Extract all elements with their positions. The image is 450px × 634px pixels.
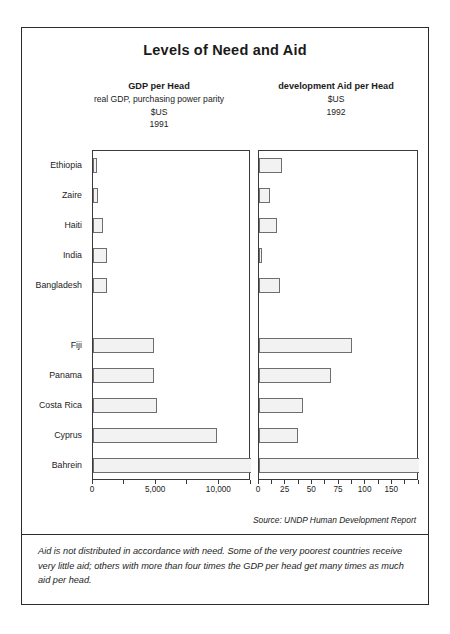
gdp-bar — [93, 218, 103, 233]
bar-row — [259, 331, 417, 361]
page-title: Levels of Need and Aid — [22, 42, 428, 58]
bar-row — [259, 271, 417, 301]
axis-tick-label: 10,000 — [206, 485, 231, 494]
bar-row — [93, 331, 249, 361]
panel-right-unit: $US — [254, 93, 418, 105]
aid-bar — [259, 338, 352, 353]
gdp-bar — [93, 188, 98, 203]
axis-tick — [218, 480, 219, 484]
bar-row — [93, 151, 249, 181]
source-note: Source: UNDP Human Development Report — [253, 515, 416, 525]
gdp-bar — [93, 338, 154, 353]
gdp-bar — [93, 278, 107, 293]
figure-frame: Levels of Need and Aid GDP per Head real… — [21, 27, 429, 605]
bar-row — [93, 271, 249, 301]
axis-tick-label: 5,000 — [145, 485, 166, 494]
figure-caption: Aid is not distributed in accordance wit… — [38, 544, 414, 588]
gdp-bar — [93, 158, 97, 173]
gdp-bar — [93, 398, 157, 413]
axis-tick — [364, 480, 365, 484]
category-label: Costa Rica — [39, 390, 82, 420]
axis-tick-label: 0 — [256, 485, 261, 494]
aid-bar — [259, 218, 277, 233]
bar-row — [259, 211, 417, 241]
bar-row — [259, 451, 417, 481]
plot-area-aid — [258, 150, 418, 480]
aid-bar — [259, 428, 298, 443]
bar-row — [259, 361, 417, 391]
axis-tick — [404, 480, 405, 484]
bar-row — [93, 181, 249, 211]
bar-row — [93, 211, 249, 241]
axis-tick-label: 25 — [280, 485, 289, 494]
panel-header-right: development Aid per Head $US 1992 — [254, 80, 418, 118]
bar-row — [93, 421, 249, 451]
x-axis-gdp: 05,00010,000 — [92, 480, 250, 506]
aid-bar — [259, 188, 270, 203]
category-label: Cyprus — [54, 420, 82, 450]
bar-row — [259, 421, 417, 451]
bar-row — [93, 361, 249, 391]
category-label: Haiti — [64, 210, 82, 240]
panel-left-year: 1991 — [66, 118, 252, 130]
axis-tick — [311, 480, 312, 484]
bar-row — [259, 241, 417, 271]
aid-bar — [259, 158, 282, 173]
axis-tick — [298, 480, 299, 484]
bar-row — [93, 391, 249, 421]
aid-bar — [259, 278, 280, 293]
category-label: Fiji — [71, 330, 82, 360]
bar-group-gdp — [93, 151, 249, 479]
bar-row — [93, 451, 249, 481]
axis-tick-label: 150 — [384, 485, 398, 494]
gdp-bar — [93, 428, 217, 443]
category-label: Bahrein — [52, 450, 82, 480]
axis-tick — [250, 480, 251, 484]
aid-bar — [259, 398, 303, 413]
caption-divider — [22, 534, 428, 535]
axis-tick — [186, 480, 187, 484]
aid-bar — [259, 458, 419, 473]
axis-tick — [418, 480, 419, 484]
bar-row — [259, 391, 417, 421]
axis-tick — [324, 480, 325, 484]
gdp-bar — [93, 458, 251, 473]
category-label: Ethiopia — [50, 150, 82, 180]
axis-tick — [123, 480, 124, 484]
category-label: Zaire — [62, 180, 82, 210]
axis-tick-label: 0 — [90, 485, 95, 494]
panel-left-unit: $US — [66, 106, 252, 118]
gdp-bar — [93, 368, 154, 383]
category-label: Panama — [49, 360, 82, 390]
bar-group-aid — [259, 151, 417, 479]
category-axis-labels: EthiopiaZaireHaitiIndiaBangladeshFijiPan… — [22, 150, 88, 480]
axis-tick — [391, 480, 392, 484]
aid-bar — [259, 368, 331, 383]
axis-tick — [271, 480, 272, 484]
plot-area-gdp — [92, 150, 250, 480]
aid-bar — [259, 248, 262, 263]
category-label: India — [63, 240, 82, 270]
axis-tick — [258, 480, 259, 484]
panel-right-title: development Aid per Head — [254, 80, 418, 92]
gdp-bar — [93, 248, 107, 263]
panel-left-title: GDP per Head — [66, 80, 252, 92]
axis-tick-label: 50 — [307, 485, 316, 494]
bar-row — [93, 241, 249, 271]
bar-row — [259, 181, 417, 211]
category-label: Bangladesh — [36, 270, 82, 300]
bar-row — [259, 151, 417, 181]
axis-tick-label: 100 — [358, 485, 372, 494]
axis-tick-label: 75 — [333, 485, 342, 494]
axis-tick — [92, 480, 93, 484]
panel-left-subtitle: real GDP, purchasing power parity — [66, 93, 252, 105]
x-axis-aid: 0255075100150 — [258, 480, 418, 506]
axis-tick — [338, 480, 339, 484]
panel-header-left: GDP per Head real GDP, purchasing power … — [66, 80, 252, 131]
axis-tick — [284, 480, 285, 484]
panel-right-year: 1992 — [254, 106, 418, 118]
axis-tick — [155, 480, 156, 484]
axis-tick — [351, 480, 352, 484]
axis-tick — [378, 480, 379, 484]
